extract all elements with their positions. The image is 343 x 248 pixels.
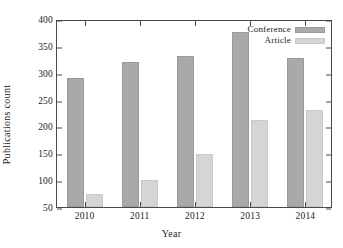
bar-article-2013 [251, 120, 268, 207]
y-tick-mark [57, 101, 62, 102]
y-tick-label: 150 [38, 151, 53, 161]
bar-conference-2011 [122, 62, 139, 207]
y-tick-label: 200 [38, 124, 53, 134]
x-tick-mark [140, 21, 141, 26]
x-tick-label-2013: 2013 [240, 212, 260, 222]
x-tick-label-2012: 2012 [185, 212, 205, 222]
bar-conference-2014 [287, 58, 304, 207]
y-tick-label: 50 [43, 204, 53, 214]
y-tick-mark [57, 128, 62, 129]
bar-article-2011 [141, 180, 158, 207]
x-axis-title: Year [0, 228, 343, 239]
y-axis-title-text: Publications count [2, 84, 13, 164]
bar-article-2012 [196, 154, 213, 207]
y-tick-label: 100 [38, 177, 53, 187]
legend-item-conference: Conference [248, 24, 325, 35]
y-tick-mark [326, 155, 331, 156]
y-tick-label: 300 [38, 70, 53, 80]
y-tick-mark [326, 128, 331, 129]
y-tick-mark [57, 47, 62, 48]
x-tick-mark [85, 21, 86, 26]
legend-item-article: Article [248, 35, 325, 46]
x-tick-label-2010: 2010 [75, 212, 95, 222]
y-tick-mark [326, 47, 331, 48]
publications-count-bar-chart: Publications count 501001502002503003504… [0, 0, 343, 248]
legend-label-article: Article [265, 35, 291, 46]
y-tick-mark [57, 74, 62, 75]
bar-article-2010 [86, 194, 103, 207]
y-tick-mark [326, 182, 331, 183]
x-tick-label-2011: 2011 [130, 212, 149, 222]
y-tick-mark [57, 209, 62, 210]
y-tick-label: 350 [38, 43, 53, 53]
y-tick-mark [57, 155, 62, 156]
bar-conference-2013 [232, 32, 249, 207]
y-tick-mark [326, 21, 331, 22]
y-tick-mark [326, 209, 331, 210]
chart-legend: Conference Article [248, 24, 325, 46]
y-tick-label: 400 [38, 16, 53, 26]
y-axis-title: Publications count [0, 0, 15, 248]
x-tick-label-2014: 2014 [295, 212, 315, 222]
plot-area: 50100150200250300350400 2010201120122013… [56, 20, 332, 208]
y-tick-mark [57, 182, 62, 183]
legend-swatch-conference [295, 27, 325, 33]
y-tick-mark [326, 74, 331, 75]
legend-label-conference: Conference [248, 24, 291, 35]
y-tick-mark [326, 101, 331, 102]
y-tick-label: 250 [38, 97, 53, 107]
bar-article-2014 [306, 110, 323, 207]
legend-swatch-article [295, 38, 325, 44]
bar-conference-2012 [177, 56, 194, 207]
y-tick-mark [57, 21, 62, 22]
x-tick-mark [195, 21, 196, 26]
bar-conference-2010 [67, 78, 84, 207]
